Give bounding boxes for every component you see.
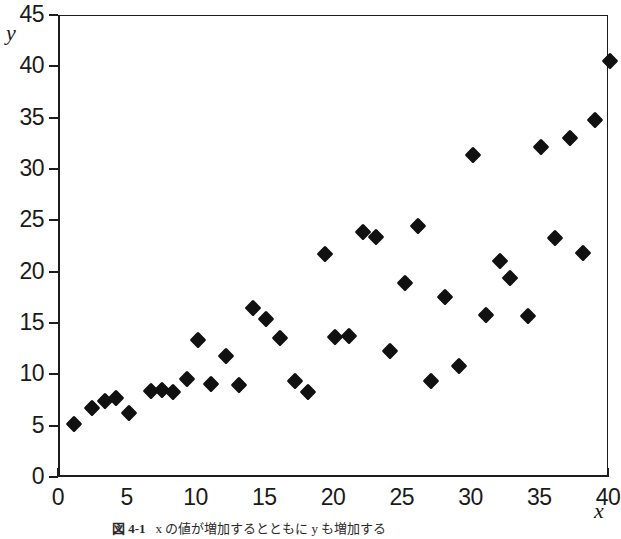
- data-point: [586, 111, 603, 128]
- data-point: [397, 274, 414, 291]
- x-axis-tick-label: 0: [52, 486, 64, 509]
- figure-caption-text: x の値が増加するとともに y も増加する: [156, 521, 387, 536]
- data-point: [317, 246, 334, 263]
- y-axis-tick: [49, 219, 58, 221]
- plot-area: [58, 15, 608, 477]
- y-axis-tick-label: 35: [19, 106, 44, 129]
- x-axis-tick-label: 15: [252, 486, 277, 509]
- y-axis-tick-label: 15: [19, 311, 44, 334]
- data-point: [340, 328, 357, 345]
- data-point: [120, 405, 137, 422]
- data-point: [501, 269, 518, 286]
- y-axis-tick-label: 5: [32, 414, 44, 437]
- data-point: [519, 307, 536, 324]
- data-point: [423, 373, 440, 390]
- figure-caption: 図 4-1x の値が増加するとともに y も増加する: [112, 521, 542, 537]
- x-axis-tick-label: 30: [458, 486, 483, 509]
- data-point: [492, 253, 509, 270]
- data-point: [547, 229, 564, 246]
- y-axis-tick-label: 25: [19, 208, 44, 231]
- data-point: [272, 330, 289, 347]
- y-axis-tick-label: 30: [19, 157, 44, 180]
- data-point: [258, 310, 275, 327]
- figure-number: 図 4-1: [112, 521, 146, 536]
- x-axis-tick-label: 20: [321, 486, 346, 509]
- y-axis-title: y: [6, 20, 16, 46]
- y-axis-tick-label: 45: [19, 3, 44, 26]
- data-point: [464, 146, 481, 163]
- y-axis-tick-label: 40: [19, 54, 44, 77]
- data-point: [382, 342, 399, 359]
- data-point: [437, 289, 454, 306]
- data-point: [244, 299, 261, 316]
- y-axis-tick-label: 20: [19, 260, 44, 283]
- data-point: [65, 415, 82, 432]
- y-axis-tick: [49, 271, 58, 273]
- y-axis-tick-label: 0: [32, 465, 44, 488]
- y-axis-tick: [49, 322, 58, 324]
- y-axis-tick-label: 10: [19, 362, 44, 385]
- y-axis-tick: [49, 373, 58, 375]
- data-point: [218, 347, 235, 364]
- y-axis-tick: [49, 14, 58, 16]
- data-point: [409, 218, 426, 235]
- data-point: [299, 383, 316, 400]
- data-point: [178, 371, 195, 388]
- data-layer: [60, 16, 607, 475]
- y-axis-tick: [49, 117, 58, 119]
- y-axis-tick: [49, 425, 58, 427]
- data-point: [602, 53, 619, 70]
- x-axis-tick-label: 40: [596, 486, 621, 509]
- data-point: [189, 332, 206, 349]
- data-point: [574, 245, 591, 262]
- data-point: [533, 139, 550, 156]
- y-axis-tick: [49, 168, 58, 170]
- data-point: [562, 130, 579, 147]
- scatter-plot-figure: y x 051015202530354045 0510152025303540 …: [0, 0, 621, 539]
- x-axis-tick-label: 35: [527, 486, 552, 509]
- data-point: [450, 358, 467, 375]
- x-axis-tick-label: 10: [183, 486, 208, 509]
- data-point: [478, 306, 495, 323]
- data-point: [203, 375, 220, 392]
- data-point: [230, 376, 247, 393]
- x-axis-tick-label: 5: [121, 486, 133, 509]
- x-axis-tick-label: 25: [389, 486, 414, 509]
- y-axis-tick: [49, 65, 58, 67]
- data-point: [287, 373, 304, 390]
